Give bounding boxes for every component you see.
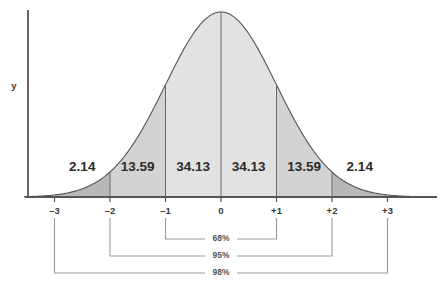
band-value-1: 13.59 (121, 159, 155, 174)
band-value-4: 13.59 (287, 159, 321, 174)
band-value-5: 2.14 (347, 159, 374, 174)
band-value-0: 2.14 (69, 159, 96, 174)
band-region-0 (55, 172, 111, 197)
bracket-2: 98% (55, 218, 388, 279)
x-tick-label-3: 0 (218, 205, 223, 216)
bracket-label-2: 98% (212, 267, 229, 277)
x-tick-label-6: +3 (382, 205, 393, 216)
y-axis-label: y (11, 80, 17, 91)
band-region-5 (332, 172, 388, 197)
bracket-label-0: 68% (212, 233, 229, 243)
normal-distribution-chart: y–3–2–10+1+2+32.1413.5934.1334.1313.592.… (0, 0, 442, 290)
x-tick-label-0: –3 (49, 205, 60, 216)
band-value-2: 34.13 (176, 159, 210, 174)
x-tick-label-2: –1 (160, 205, 171, 216)
bracket-label-1: 95% (212, 250, 229, 260)
x-tick-label-4: +1 (271, 205, 283, 216)
bracket-0: 68% (166, 218, 277, 245)
chart-canvas: y–3–2–10+1+2+32.1413.5934.1334.1313.592.… (0, 0, 442, 290)
x-tick-label-1: –2 (105, 205, 116, 216)
x-tick-label-5: +2 (327, 205, 338, 216)
confidence-brackets: 68%95%98% (55, 218, 388, 279)
x-axis-ticks: –3–2–10+1+2+3 (49, 197, 393, 216)
band-value-3: 34.13 (232, 159, 266, 174)
bracket-path-2 (55, 218, 388, 273)
